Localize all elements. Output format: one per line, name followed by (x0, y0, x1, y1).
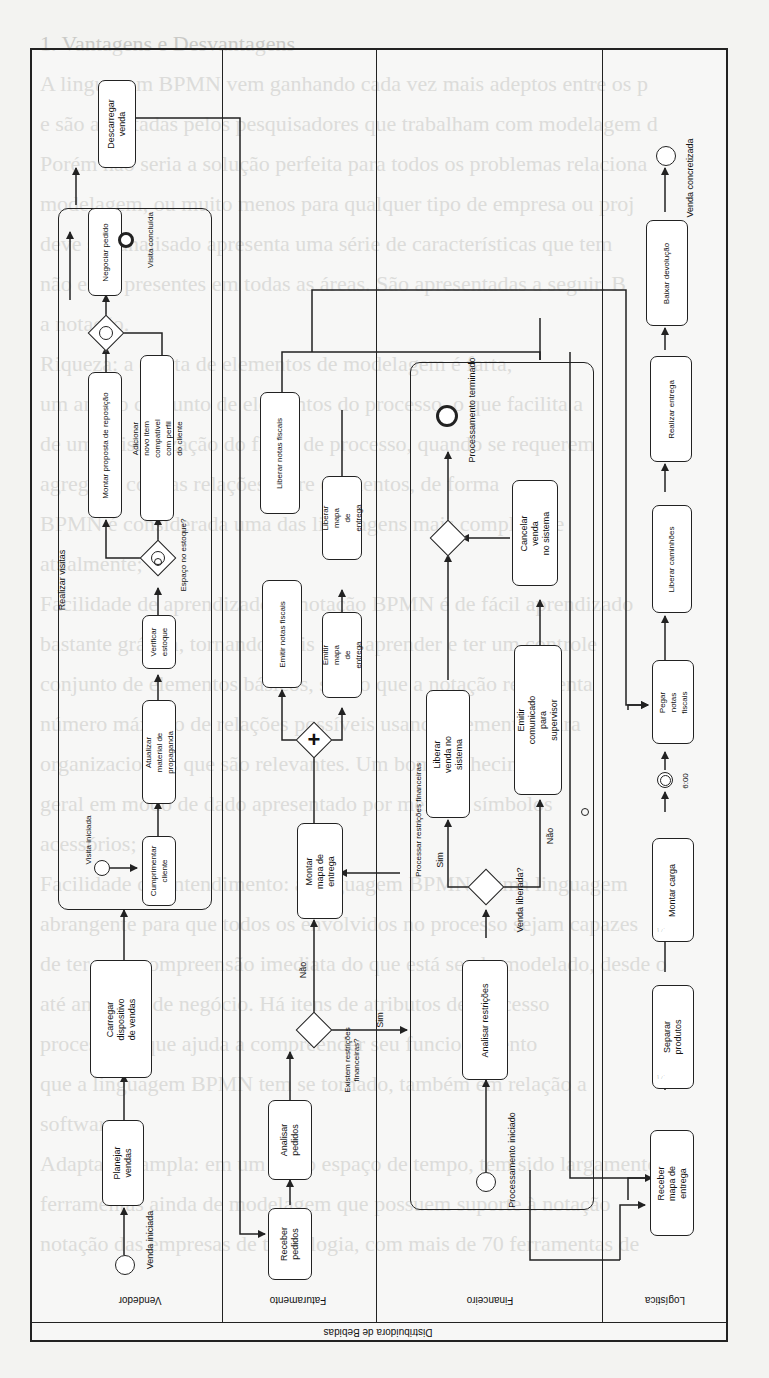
task-emitir-comunicado[interactable]: Emitir comunicado para supervisor (514, 645, 562, 795)
end-event-label-venda-concretizada: Venda concretizada (685, 138, 695, 217)
task-realizar-entrega[interactable]: Realizar entrega (650, 356, 692, 462)
task-carregar-dispositivo[interactable]: Carregar dispositivo de vendas (90, 960, 152, 1078)
lane-divider-2 (376, 48, 377, 1322)
task-liberar-mapa-entrega[interactable]: Liberar mapa de entrega (322, 476, 362, 560)
task-cumprimentar-cliente[interactable]: Cumprimentar cliente (142, 836, 176, 906)
task-emitir-notas-fiscais[interactable]: Emitir notas fiscais (262, 580, 302, 688)
task-montar-carga[interactable]: Montar carga ☞ (652, 838, 694, 942)
subprocess-label-realizar-visitas: Realizar visitas (57, 550, 67, 611)
clock-icon (660, 775, 671, 786)
start-event-processamento-iniciado[interactable] (476, 1172, 496, 1192)
start-event-venda-iniciada[interactable] (115, 1255, 135, 1275)
start-event-visita-iniciada[interactable] (94, 860, 110, 876)
flow-label-sim: Sim (375, 1012, 385, 1028)
lane-label-financeiro: Financeiro (467, 1295, 514, 1306)
event-based-gateway-icon (99, 326, 113, 340)
task-pegar-notas-fiscais[interactable]: Pegar notas fiscais (652, 660, 694, 744)
task-liberar-caminhoes[interactable]: Liberar caminhões (652, 505, 692, 613)
end-event-processamento-terminado[interactable] (436, 405, 458, 427)
task-montar-proposta[interactable]: Montar proposta de reposição (88, 372, 122, 518)
lane-label-faturamento: Faturamento (270, 1295, 327, 1306)
sub-start-label: Visita iniciada (84, 816, 93, 865)
lane-divider-1 (222, 48, 223, 1322)
gateway-label-restricoes: Existem restrições financeiras? (343, 1027, 361, 1092)
small-circle-marker (154, 558, 162, 566)
task-descarregar-venda[interactable]: Descarregar venda (98, 80, 136, 168)
task-separar-produtos[interactable]: Separar produtos ☞ (652, 985, 694, 1089)
flow-label-sim-financeiro: Sim (435, 852, 445, 868)
gateway-label-espaco-estoque: Espaço no estoque? (179, 519, 188, 592)
small-circle-marker (581, 808, 589, 816)
task-atualizar-material[interactable]: Atualizar material de propaganda (142, 700, 176, 804)
task-cancelar-venda[interactable]: Cancelar venda no sistema (512, 480, 558, 586)
subprocess-realizar-visitas[interactable] (58, 208, 212, 910)
pool-label-divider (30, 1322, 728, 1323)
end-event-venda-concretizada[interactable] (656, 146, 676, 166)
task-liberar-venda-sistema[interactable]: Liberar venda no sistema (426, 690, 470, 818)
task-analisar-pedidos[interactable]: Analisar pedidos (268, 1100, 312, 1180)
subprocess-label-processar: Processar restrições financeiras (414, 763, 423, 877)
end-event-label-processamento: Processamento terminado (467, 357, 477, 462)
manual-task-icon: ☞ (657, 925, 665, 935)
task-negociar-pedido[interactable]: Negociar pedido (88, 208, 122, 296)
timer-event[interactable] (657, 772, 673, 788)
task-verificar-estoque[interactable]: Verificar estoque (142, 615, 176, 669)
pool-label: Distribuidora de Bebidas (324, 1327, 433, 1338)
task-emitir-mapa-entrega[interactable]: Emitir mapa de entrega (322, 612, 362, 698)
task-adicionar-item[interactable]: Adicionar novo item compatível com perfi… (140, 355, 174, 521)
start-event-label: Venda iniciada (145, 1211, 155, 1270)
task-baixar-devolucao[interactable]: Baixar devolução (646, 220, 688, 326)
task-receber-pedidos[interactable]: Receber pedidos (268, 1208, 312, 1280)
timer-label: 6:00 (681, 773, 690, 789)
end-event-visita-concluida[interactable] (118, 232, 134, 248)
lane-label-vendedor: Vendedor (119, 1295, 162, 1306)
task-liberar-notas-fiscais[interactable]: Liberar notas fiscais (260, 392, 300, 514)
plus-icon: + (308, 729, 321, 751)
task-analisar-restricoes[interactable]: Analisar restrições (462, 960, 508, 1080)
lane-divider-3 (602, 48, 603, 1322)
task-montar-mapa-entrega[interactable]: Montar mapa de entrega (297, 823, 343, 919)
flow-label-nao-financeiro: Não (545, 828, 555, 845)
manual-task-icon: ☞ (657, 1072, 665, 1082)
task-planejar-vendas[interactable]: Planejar vendas (102, 1120, 144, 1206)
gateway-label-venda-liberada: Venda liberada? (515, 867, 525, 932)
flow-label-nao: Não (298, 962, 308, 979)
start-event-label-processamento: Processamento iniciado (507, 1112, 517, 1208)
lane-label-logistica: Logística (645, 1295, 685, 1306)
end-event-label-visita: Visita concluída (146, 212, 155, 268)
task-receber-mapa-entrega[interactable]: Receber mapa de entrega (650, 1130, 694, 1236)
